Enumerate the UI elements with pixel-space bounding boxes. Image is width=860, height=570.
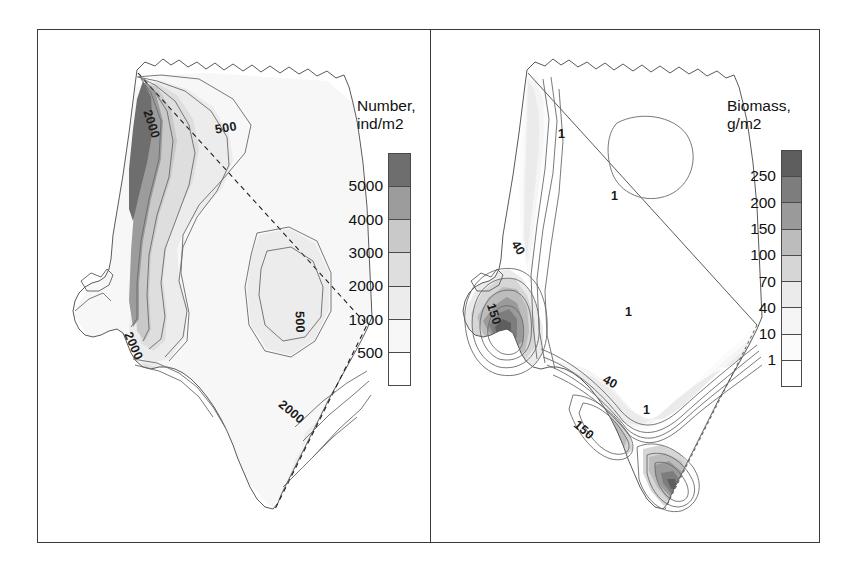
legend-tick-150: 150	[750, 220, 776, 238]
legend-band-1000-2000	[389, 287, 410, 320]
legend-ticklabels-biomass: 250 200 150 100 70 40 10 1	[721, 150, 776, 387]
legend-tick-200: 200	[750, 194, 776, 212]
panel-biomass: 1 1 40 150 1 40 1 150 Biomass, g/m2 250	[431, 29, 820, 543]
legend-tick-3000: 3000	[349, 244, 383, 262]
legend-band-under-1	[782, 361, 801, 386]
legend-tick-70: 70	[759, 273, 776, 291]
legend-band-200-250	[782, 177, 801, 203]
legend-band-40-70	[782, 282, 801, 308]
legend-ticklabels-number: 5000 4000 3000 2000 1000 500	[315, 153, 383, 386]
legend-colorbar-number	[388, 153, 411, 386]
legend-colorbar-biomass	[781, 150, 802, 387]
legend-title-biomass: Biomass, g/m2	[727, 97, 791, 134]
legend-band-70-100	[782, 256, 801, 282]
legend-tick-100: 100	[750, 246, 776, 264]
legend-band-150-200	[782, 203, 801, 229]
legend-band-500-1000	[389, 320, 410, 353]
panel-number: 2000 500 2000 500 2000 Number, ind/m2 50…	[37, 29, 430, 543]
legend-tick-5000: 5000	[349, 177, 383, 195]
legend-band-100-150	[782, 230, 801, 256]
legend-band-1-10	[782, 335, 801, 361]
legend-tick-1: 1	[767, 351, 776, 369]
legend-band-250plus	[782, 151, 801, 177]
legend-band-under-500	[389, 353, 410, 385]
legend-band-4000-5000	[389, 187, 410, 220]
figure-root: 2000 500 2000 500 2000 Number, ind/m2 50…	[0, 0, 860, 570]
legend-tick-40: 40	[759, 299, 776, 317]
legend-tick-1000: 1000	[349, 311, 383, 329]
legend-tick-4000: 4000	[349, 211, 383, 229]
legend-tick-500: 500	[357, 344, 383, 362]
legend-number: Number, ind/m2 5000 4000 3000 2000 1000 …	[37, 29, 430, 543]
legend-tick-10: 10	[759, 325, 776, 343]
legend-tick-250: 250	[750, 167, 776, 185]
legend-band-10-40	[782, 308, 801, 334]
legend-title-number: Number, ind/m2	[357, 97, 416, 134]
legend-tick-2000: 2000	[349, 277, 383, 295]
legend-band-5000plus	[389, 154, 410, 187]
legend-band-3000-4000	[389, 220, 410, 253]
legend-biomass: Biomass, g/m2 250 200 150 100 70 40 10	[431, 29, 820, 543]
legend-band-2000-3000	[389, 253, 410, 286]
